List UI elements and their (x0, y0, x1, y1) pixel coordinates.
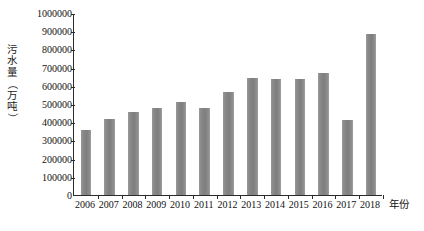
bar (176, 102, 187, 195)
bar (318, 73, 329, 195)
y-axis-tick-mark (71, 178, 75, 179)
x-axis-tick-labels: 2006200720082009201020112012201320142015… (73, 199, 382, 215)
x-axis-tick-label: 2018 (360, 199, 380, 211)
bar (81, 130, 92, 195)
bar (152, 108, 163, 195)
plot-area (73, 14, 382, 196)
x-axis-tick-label: 2010 (170, 199, 190, 211)
y-axis-tick-mark (71, 105, 75, 106)
x-axis-tick-mark (383, 195, 384, 199)
y-axis-tick-mark (71, 69, 75, 70)
y-axis-tick-label: 400000 (18, 118, 72, 128)
bar (342, 120, 353, 195)
x-axis-tick-label: 2013 (241, 199, 261, 211)
y-axis-tick-mark (71, 50, 75, 51)
y-axis-tick-mark (71, 32, 75, 33)
y-axis-tick-label: 300000 (18, 136, 72, 146)
x-axis-title: 年份 (389, 199, 409, 211)
x-axis-tick-label: 2016 (313, 199, 333, 211)
x-axis-tick-label: 2008 (122, 199, 142, 211)
bar (199, 108, 210, 195)
y-axis-title-char-3: （ (6, 76, 17, 92)
y-axis-title-char-6: ） (6, 110, 17, 126)
x-axis-tick-label: 2007 (99, 199, 119, 211)
bar-chart-figure: 污水量（万吨） 01000002000003000004000005000006… (0, 0, 424, 231)
bar (295, 79, 306, 195)
y-axis-tick-label: 100000 (18, 173, 72, 183)
bar (247, 78, 258, 195)
y-axis-tick-mark (71, 141, 75, 142)
y-axis-tick-label: 1000000 (18, 9, 72, 19)
bar (128, 112, 139, 195)
bar (271, 79, 282, 195)
x-axis-tick-label: 2009 (146, 199, 166, 211)
bar (366, 34, 377, 195)
y-axis-tick-label: 700000 (18, 64, 72, 74)
y-axis-tick-label: 600000 (18, 82, 72, 92)
x-axis-tick-label: 2017 (336, 199, 356, 211)
x-axis-tick-label: 2012 (218, 199, 238, 211)
y-axis-tick-mark (71, 160, 75, 161)
x-axis-tick-label: 2014 (265, 199, 285, 211)
x-axis-tick-label: 2006 (75, 199, 95, 211)
y-axis-title-char-1: 水 (7, 55, 17, 66)
y-axis-tick-mark (71, 14, 75, 15)
y-axis-tick-label: 500000 (18, 100, 72, 110)
bar (104, 119, 115, 195)
y-axis-tick-labels: 0100000200000300000400000500000600000700… (18, 8, 72, 204)
y-axis-tick-label: 0 (18, 191, 72, 201)
x-axis-tick-label: 2011 (194, 199, 214, 211)
y-axis-tick-mark (71, 87, 75, 88)
y-axis-tick-label: 800000 (18, 45, 72, 55)
y-axis-tick-label: 900000 (18, 27, 72, 37)
bar (223, 92, 234, 195)
x-axis-tick-label: 2015 (289, 199, 309, 211)
y-axis-tick-mark (71, 123, 75, 124)
y-axis-title-char-0: 污 (7, 44, 17, 55)
y-axis-tick-label: 200000 (18, 155, 72, 165)
